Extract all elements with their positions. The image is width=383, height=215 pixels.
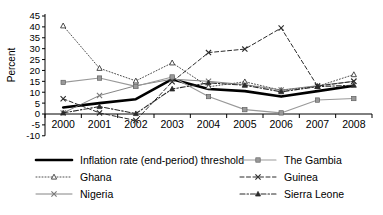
- legend-column: The GambiaGuineaSierra Leone: [238, 152, 344, 203]
- data-point-marker-x: [97, 93, 102, 98]
- legend-label: The Gambia: [284, 154, 342, 166]
- legend-label: Ghana: [80, 171, 112, 183]
- x-axis-tick-label: 2008: [342, 118, 366, 130]
- legend-swatch-inflation-rate-end-period-threshold: [34, 153, 74, 167]
- series-guinea: [61, 25, 357, 123]
- y-axis-tick-label: 40: [29, 21, 40, 32]
- y-axis-tick-label: 20: [29, 65, 40, 76]
- x-axis-tick-label: 2003: [160, 118, 184, 130]
- y-axis-tick-label: 25: [29, 54, 40, 65]
- chart-legend: Inflation rate (end-period) thresholdGha…: [0, 152, 383, 215]
- y-axis-title: Percent: [6, 48, 17, 83]
- legend-item[interactable]: Nigeria: [34, 186, 244, 202]
- legend-item[interactable]: Sierra Leone: [238, 186, 344, 202]
- data-point-marker-x: [61, 96, 66, 101]
- data-point-marker-square: [256, 158, 260, 162]
- data-point-marker-triangle: [61, 23, 66, 28]
- y-axis-tick-label: -5: [32, 119, 40, 130]
- y-axis-tick-label: 5: [35, 98, 40, 109]
- y-axis-tick-label: -10: [26, 130, 40, 141]
- y-axis-tick-label: 45: [29, 10, 40, 21]
- data-point-marker-triangle-filled: [133, 111, 138, 116]
- x-axis-tick-label: 2007: [306, 118, 330, 130]
- x-axis-tick-label: 2005: [233, 118, 257, 130]
- data-point-marker-square: [170, 75, 174, 79]
- y-axis-tick-label: 30: [29, 43, 40, 54]
- data-point-marker-square: [243, 107, 247, 111]
- legend-item[interactable]: Guinea: [238, 169, 344, 185]
- x-axis-tick-label: 2001: [88, 118, 112, 130]
- legend-item[interactable]: The Gambia: [238, 152, 344, 168]
- data-point-marker-square: [206, 94, 210, 98]
- legend-swatch-ghana: [34, 170, 74, 184]
- data-point-marker-triangle-filled: [97, 104, 102, 109]
- legend-label: Inflation rate (end-period) threshold: [80, 154, 244, 166]
- legend-column: Inflation rate (end-period) thresholdGha…: [34, 152, 244, 203]
- legend-label: Nigeria: [80, 188, 113, 200]
- legend-swatch-the-gambia: [238, 153, 278, 167]
- data-point-marker-x: [279, 25, 284, 30]
- legend-label: Sierra Leone: [284, 188, 344, 200]
- y-axis-tick-label: 0: [35, 108, 40, 119]
- x-axis-tick-label: 2000: [51, 118, 75, 130]
- chart-plot-area: 454035302520151050-5-10Percent2000200120…: [0, 0, 383, 150]
- data-point-marker-triangle-filled: [256, 191, 261, 196]
- data-point-marker-square: [315, 98, 319, 102]
- line-chart-svg: 454035302520151050-5-10Percent2000200120…: [0, 0, 383, 150]
- legend-item[interactable]: Ghana: [34, 169, 244, 185]
- x-axis-tick-label: 2006: [269, 118, 293, 130]
- data-point-marker-triangle: [170, 60, 175, 65]
- legend-swatch-sierra-leone: [238, 187, 278, 201]
- data-point-marker-square: [352, 96, 356, 100]
- series-line: [63, 28, 354, 121]
- data-point-marker-square: [61, 80, 65, 84]
- y-axis-tick-label: 35: [29, 32, 40, 43]
- data-point-marker-square: [134, 84, 138, 88]
- data-point-marker-triangle: [97, 65, 102, 70]
- x-axis-tick-label: 2004: [197, 118, 221, 130]
- legend-swatch-nigeria: [34, 187, 74, 201]
- y-axis-tick-label: 15: [29, 76, 40, 87]
- data-point-marker-triangle: [351, 72, 356, 77]
- data-point-marker-square: [97, 76, 101, 80]
- chart-figure: 454035302520151050-5-10Percent2000200120…: [0, 0, 383, 215]
- data-point-marker-triangle: [133, 78, 138, 83]
- legend-item[interactable]: Inflation rate (end-period) threshold: [34, 152, 244, 168]
- y-axis-tick-label: 10: [29, 87, 40, 98]
- data-point-marker-square: [279, 111, 283, 115]
- legend-label: Guinea: [284, 171, 318, 183]
- legend-swatch-guinea: [238, 170, 278, 184]
